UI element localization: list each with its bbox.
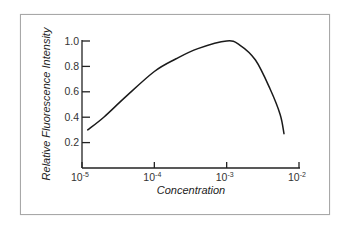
data-line (88, 41, 284, 134)
x-ticks: 10-510-410-310-2 (71, 162, 306, 183)
y-ticks: 0.20.40.60.81.0 (64, 35, 90, 149)
y-tick-label: 0.4 (64, 111, 79, 123)
y-tick-label: 1.0 (64, 35, 79, 47)
line-chart: 0.20.40.60.81.0 10-510-410-310-2 Concent… (0, 0, 349, 227)
x-tick-label: 10-4 (143, 171, 161, 183)
x-tick-label: 10-3 (216, 171, 234, 183)
y-tick-label: 0.2 (64, 136, 79, 148)
x-tick-label: 10-2 (288, 171, 306, 183)
x-axis-title: Concentration (157, 184, 226, 196)
y-tick-label: 0.8 (64, 60, 79, 72)
x-tick-label: 10-5 (71, 171, 89, 183)
y-axis-title: Relative Fluorescence Intensity (40, 26, 52, 180)
y-tick-label: 0.6 (64, 85, 79, 97)
